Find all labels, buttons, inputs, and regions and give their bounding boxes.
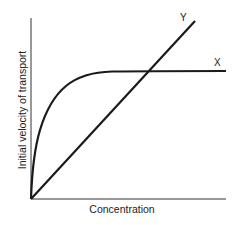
series-y-line xyxy=(31,21,195,199)
x-axis-title: Concentration xyxy=(89,203,155,215)
series-y-label: Y xyxy=(180,12,187,23)
chart: Y X Concentration Initial velocity of tr… xyxy=(0,0,235,225)
series-x-curve xyxy=(31,71,226,199)
series-x-label: X xyxy=(214,57,221,68)
y-axis-title: Initial velocity of transport xyxy=(16,51,28,170)
